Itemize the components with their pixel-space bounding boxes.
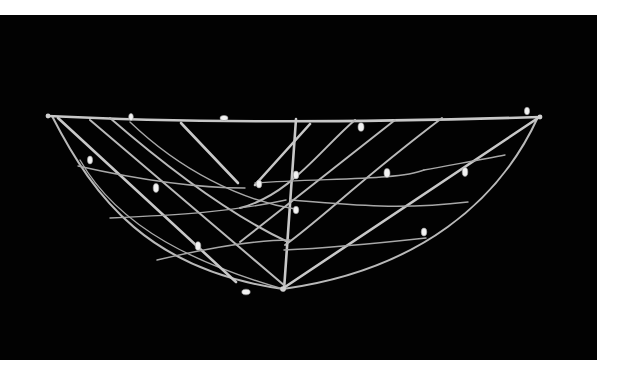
- knot: [280, 286, 286, 292]
- left-outer-arc: [52, 116, 283, 289]
- cross-stick-2: [255, 170, 424, 183]
- shell: [242, 289, 250, 295]
- cross-stick-4: [110, 200, 286, 218]
- knot: [538, 115, 543, 120]
- shell: [153, 184, 159, 193]
- right-diagonal-3: [285, 118, 442, 245]
- shell: [220, 115, 228, 120]
- shell: [421, 228, 427, 236]
- top-bar: [48, 116, 540, 121]
- shell: [293, 206, 299, 214]
- stick-chart: [0, 0, 621, 381]
- shell: [384, 169, 390, 178]
- shell: [293, 171, 299, 179]
- knot: [46, 114, 51, 119]
- shell: [462, 168, 468, 177]
- left-diagonal-1: [58, 118, 236, 282]
- shell: [524, 107, 529, 115]
- left-v-arm: [181, 123, 238, 183]
- shell: [195, 242, 201, 251]
- shell: [129, 113, 134, 120]
- right-v-arm: [255, 124, 310, 185]
- cross-stick-5: [290, 200, 468, 206]
- shell: [87, 156, 92, 164]
- shell: [256, 180, 262, 188]
- right-diagonal-2: [240, 120, 395, 242]
- shell: [358, 123, 364, 132]
